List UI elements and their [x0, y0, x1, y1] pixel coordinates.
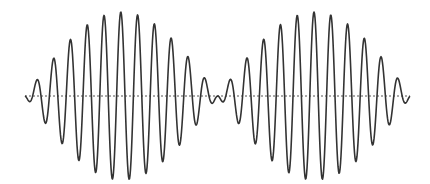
- background: [0, 0, 430, 184]
- beat-waveform-diagram: [0, 0, 430, 184]
